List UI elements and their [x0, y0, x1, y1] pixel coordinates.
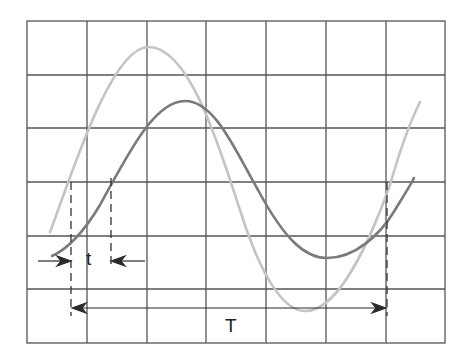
period-label: T [225, 315, 237, 337]
phase-shift-arrows [38, 256, 145, 266]
grid [27, 21, 445, 343]
dashed-markers [71, 178, 387, 316]
oscilloscope-diagram [0, 0, 464, 359]
phase-shift-label: t [86, 248, 91, 270]
reference-wave [50, 47, 420, 311]
period-arrow [72, 303, 386, 313]
delayed-wave [52, 101, 414, 258]
